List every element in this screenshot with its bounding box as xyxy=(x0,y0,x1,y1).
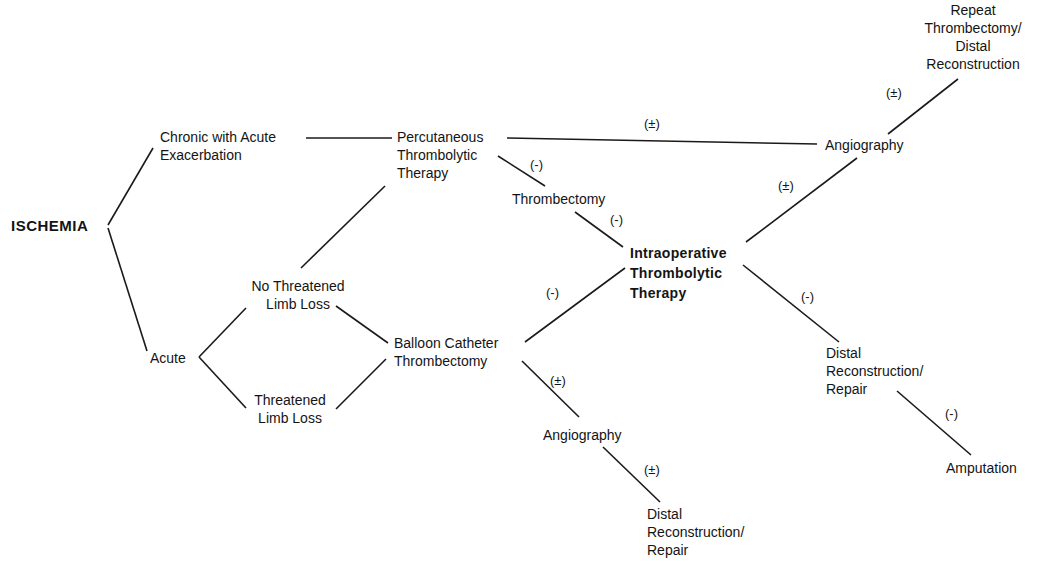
node-repeat-thrombectomy-distal-reconstruction: Repeat Thrombectomy/ Distal Reconstructi… xyxy=(914,1,1032,73)
node-angiography-bottom: Angiography xyxy=(543,426,622,444)
node-label-line: Therapy xyxy=(397,164,483,182)
node-ischemia-label: ISCHEMIA xyxy=(11,217,88,235)
edge-label-ptt-thrombectomy: (-) xyxy=(530,157,543,172)
node-label-line: Balloon Catheter xyxy=(394,334,498,352)
node-intraoperative-thrombolytic-therapy: Intraoperative Thrombolytic Therapy xyxy=(630,243,727,303)
node-label-line: Distal xyxy=(914,37,1032,55)
node-label-line: Limb Loss xyxy=(242,409,338,427)
edge-no-threat-ptt xyxy=(301,186,385,268)
node-label-line: Reconstruction/ xyxy=(826,362,923,380)
node-chronic-acute-exacerbation: Chronic with Acute Exacerbation xyxy=(160,128,276,164)
edge-label-thrombectomy-iot: (-) xyxy=(610,212,623,227)
edge-distal-amputation xyxy=(897,391,971,455)
edge-balloon-angio xyxy=(522,361,579,417)
edge-label-balloon-angio: (±) xyxy=(550,373,566,388)
edge-label-balloon-iot: (-) xyxy=(546,285,559,300)
edge-label-ptt-angio: (±) xyxy=(644,116,660,131)
edge-threat-balloon xyxy=(336,359,386,409)
edge-ptt-angio xyxy=(507,138,817,144)
node-label-line: Thrombectomy xyxy=(512,190,605,208)
edge-balloon-iot xyxy=(525,268,625,342)
node-label-line: Acute xyxy=(150,349,186,367)
node-amputation: Amputation xyxy=(946,459,1017,477)
edge-acute-no-threat xyxy=(199,308,246,357)
node-acute: Acute xyxy=(150,349,186,367)
node-ischemia: ISCHEMIA xyxy=(11,217,88,235)
node-label-line: Thrombolytic xyxy=(397,146,483,164)
node-label-line: Intraoperative xyxy=(630,243,727,263)
node-label-line: Distal xyxy=(826,344,923,362)
node-label-line: Amputation xyxy=(946,459,1017,477)
node-label-line: Reconstruction xyxy=(914,55,1032,73)
node-threatened-limb-loss: Threatened Limb Loss xyxy=(242,391,338,427)
node-distal-reconstruction-repair-bottom: Distal Reconstruction/ Repair xyxy=(647,505,744,559)
node-label-line: Distal xyxy=(647,505,744,523)
node-label-line: Angiography xyxy=(825,136,904,154)
node-balloon-catheter-thrombectomy: Balloon Catheter Thrombectomy xyxy=(394,334,498,370)
edge-label-angio-distal: (±) xyxy=(644,462,660,477)
edge-iot-distal xyxy=(743,265,839,342)
ischemia-management-flowchart: ISCHEMIA Chronic with Acute Exacerbation… xyxy=(0,0,1042,568)
node-distal-reconstruction-repair-right: Distal Reconstruction/ Repair xyxy=(826,344,923,398)
edge-iot-angio xyxy=(746,158,857,242)
edge-label-distal-amputation: (-) xyxy=(945,406,958,421)
edge-ischemia-chronic xyxy=(108,148,153,225)
node-no-threatened-limb-loss: No Threatened Limb Loss xyxy=(242,277,354,313)
edge-acute-threat xyxy=(199,357,246,408)
node-label-line: Percutaneous xyxy=(397,128,483,146)
node-angiography-top: Angiography xyxy=(825,136,904,154)
node-label-line: Thrombectomy xyxy=(394,352,498,370)
node-label-line: Repair xyxy=(647,541,744,559)
edge-label-iot-angio: (±) xyxy=(778,178,794,193)
node-label-line: Repair xyxy=(826,380,923,398)
node-label-line: Repeat xyxy=(914,1,1032,19)
node-label-line: Limb Loss xyxy=(242,295,354,313)
node-label-line: Therapy xyxy=(630,283,727,303)
node-label-line: Angiography xyxy=(543,426,622,444)
edge-label-iot-distal: (-) xyxy=(801,289,814,304)
node-label-line: Thrombolytic xyxy=(630,263,727,283)
node-label-line: Chronic with Acute xyxy=(160,128,276,146)
node-label-line: Exacerbation xyxy=(160,146,276,164)
node-label-line: Threatened xyxy=(242,391,338,409)
edge-ischemia-acute xyxy=(108,228,147,351)
edge-label-angio-repeat: (±) xyxy=(886,85,902,100)
node-label-line: Thrombectomy/ xyxy=(914,19,1032,37)
node-label-line: Reconstruction/ xyxy=(647,523,744,541)
node-label-line: No Threatened xyxy=(242,277,354,295)
node-thrombectomy: Thrombectomy xyxy=(512,190,605,208)
node-percutaneous-thrombolytic-therapy: Percutaneous Thrombolytic Therapy xyxy=(397,128,483,182)
